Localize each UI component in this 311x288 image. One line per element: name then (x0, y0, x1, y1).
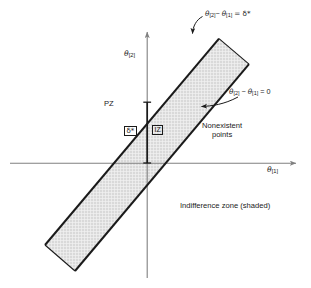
theta-subscript: [1] (226, 12, 232, 18)
nonexistent-line-2: points (202, 131, 242, 140)
theta-subscript: [2] (129, 52, 135, 58)
theta-subscript: [1] (252, 90, 258, 96)
equation-rhs: = δ* (234, 9, 250, 18)
figure-canvas (0, 0, 311, 288)
lower-boundary-line (75, 64, 249, 271)
equation-rhs: = 0 (260, 87, 270, 96)
upper-equation-leader (193, 17, 203, 34)
y-axis-label: θ[2] (124, 50, 135, 59)
pz-label: PZ (104, 100, 114, 109)
nonexistent-points-label: Nonexistent points (202, 122, 242, 140)
upper-line-equation-label: θ[2]− θ[1] = δ* (205, 10, 251, 19)
upper-leader-arrow (193, 17, 203, 34)
iz-label: IZ (152, 125, 163, 135)
theta-subscript: [1] (272, 168, 278, 174)
indifference-zone-figure: θ[2]− θ[1] = δ* θ[2] − θ[1] = 0 θ[2] θ[1… (0, 0, 311, 288)
x-axis-label: θ[1] (267, 166, 278, 175)
figure-caption: Indifference zone (shaded) (180, 202, 270, 211)
delta-symbol: δ* (127, 127, 135, 135)
delta-star-label: δ* (124, 126, 137, 136)
theta-subscript: [2] (233, 90, 239, 96)
minus-symbol: − (216, 9, 220, 18)
lower-line-equation-label: θ[2] − θ[1] = 0 (229, 88, 270, 97)
minus-symbol: − (242, 87, 246, 96)
upper-boundary-line (45, 39, 219, 245)
